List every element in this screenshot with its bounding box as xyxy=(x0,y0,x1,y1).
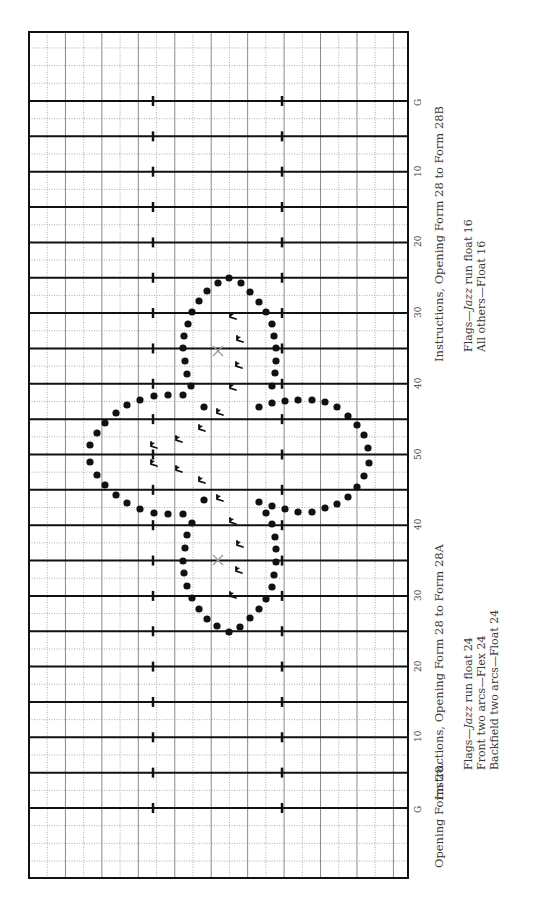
yard-label: G xyxy=(413,99,423,106)
performer-dot xyxy=(272,344,279,351)
performer-dot xyxy=(200,496,207,503)
flag-icon xyxy=(151,442,157,448)
flag-icon xyxy=(236,362,242,368)
performer-dot xyxy=(272,545,279,552)
yard-label: 20 xyxy=(413,660,423,671)
performer-dot xyxy=(246,614,253,621)
performer-dot xyxy=(86,458,93,465)
performer-dot xyxy=(101,481,108,488)
performer-dot xyxy=(353,483,360,490)
performer-dot xyxy=(321,398,328,405)
performer-dot xyxy=(271,533,278,540)
performer-dot xyxy=(360,431,367,438)
performer-dot xyxy=(195,297,202,304)
flag-icon xyxy=(230,384,236,390)
performer-dot xyxy=(164,510,171,517)
flag-icon xyxy=(217,495,223,501)
instructions-a-title: Instructions, Opening Form 28 to Form 28… xyxy=(432,544,446,800)
flag-icon xyxy=(237,336,243,342)
yard-label: 50 xyxy=(413,448,423,459)
performer-dot xyxy=(203,615,210,622)
performer-dot xyxy=(270,332,277,339)
instruction-b-others: All others—Float 16 xyxy=(475,219,488,352)
performer-dot xyxy=(183,531,190,538)
performer-dot xyxy=(136,396,143,403)
performer-dot xyxy=(262,308,269,315)
performer-dot xyxy=(237,279,244,286)
performer-dot xyxy=(112,409,119,416)
performer-dot xyxy=(179,510,186,517)
flag-icon xyxy=(151,460,157,466)
flag-icon xyxy=(176,436,182,442)
performer-dot xyxy=(268,520,275,527)
performer-dot xyxy=(203,287,210,294)
performer-dot xyxy=(294,396,301,403)
performer-dot xyxy=(93,429,100,436)
performer-dot xyxy=(180,332,187,339)
performer-dot xyxy=(262,595,269,602)
performer-dot xyxy=(268,502,275,509)
performer-dot xyxy=(123,401,130,408)
performer-dot xyxy=(270,571,277,578)
performer-dot xyxy=(272,558,279,565)
performer-dot xyxy=(255,605,262,612)
instruction-b-flags: Flags—Jazz run float 16 xyxy=(462,219,475,352)
performer-dot xyxy=(333,500,340,507)
performer-dot xyxy=(179,344,186,351)
performer-dot xyxy=(268,399,275,406)
performer-dot xyxy=(268,382,275,389)
performer-dot xyxy=(225,628,232,635)
performer-dot xyxy=(187,382,194,389)
performer-dot xyxy=(246,288,253,295)
performer-dot xyxy=(112,491,119,498)
performer-dot xyxy=(353,421,360,428)
flag-icon xyxy=(230,518,236,524)
yard-label: 20 xyxy=(413,236,423,247)
performer-dot xyxy=(101,419,108,426)
performer-dot xyxy=(365,459,372,466)
flag-icon xyxy=(199,477,205,483)
yard-label: G xyxy=(413,806,423,813)
instruction-a-backfield-arcs: Backfield two arcs—Float 24 xyxy=(488,610,501,770)
performer-dot xyxy=(268,583,275,590)
performer-dot xyxy=(271,369,278,376)
football-field-grid xyxy=(0,0,536,924)
flag-icon xyxy=(176,466,182,472)
instructions-a-list: Flags—Jazz run float 24 Front two arcs—F… xyxy=(462,610,501,770)
performer-dot xyxy=(294,508,301,515)
yard-label: 10 xyxy=(413,165,423,176)
performer-dot xyxy=(181,357,188,364)
performer-dot xyxy=(236,623,243,630)
performer-dot xyxy=(281,397,288,404)
yard-label: 30 xyxy=(413,307,423,318)
performer-dot xyxy=(281,505,288,512)
instructions-b-list: Flags—Jazz run float 16 All others—Float… xyxy=(462,219,488,352)
performer-dot xyxy=(181,544,188,551)
performer-dot xyxy=(272,357,279,364)
performer-dot xyxy=(123,499,130,506)
performer-dot xyxy=(344,493,351,500)
yard-label: 40 xyxy=(413,519,423,530)
performer-dot xyxy=(183,582,190,589)
marching-formation-figure: G102030405040302010G Opening Form 28. In… xyxy=(0,0,536,924)
performer-dot xyxy=(364,444,371,451)
performer-dot xyxy=(308,508,315,515)
performer-dot xyxy=(360,472,367,479)
performer-dot xyxy=(150,392,157,399)
performer-dot xyxy=(164,391,171,398)
performer-dot xyxy=(188,308,195,315)
instruction-a-flags: Flags—Jazz run float 24 xyxy=(462,610,475,770)
performer-dot xyxy=(179,391,186,398)
flag-icon xyxy=(236,567,242,573)
performer-dot xyxy=(200,403,207,410)
instructions-b-title: Instructions, Opening Form 28 to Form 28… xyxy=(432,106,446,362)
performer-dot xyxy=(150,509,157,516)
performer-dot xyxy=(188,519,195,526)
performer-dot xyxy=(213,622,220,629)
performer-dot xyxy=(93,471,100,478)
performer-dot xyxy=(179,557,186,564)
performer-dot xyxy=(188,594,195,601)
performer-dot xyxy=(183,370,190,377)
performer-dot xyxy=(136,505,143,512)
yard-label: 30 xyxy=(413,589,423,600)
